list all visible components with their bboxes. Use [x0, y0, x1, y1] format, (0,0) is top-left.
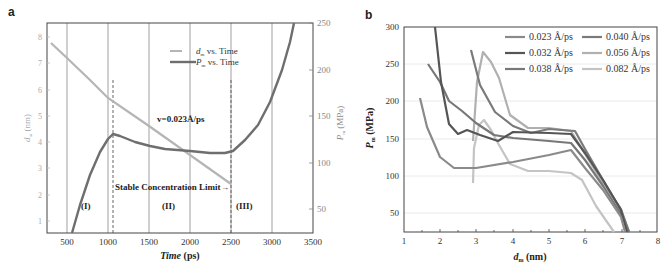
svg-text:2: 2	[38, 191, 42, 200]
svg-text:1000: 1000	[99, 237, 118, 247]
panel-a-label: a	[8, 5, 15, 19]
legend-item-0-023: 0.023 Å/ps	[529, 31, 573, 42]
panel-a-right-axis-label: Pm (MPa)	[335, 106, 346, 142]
panel-b-x-axis-label: dm (nm)	[513, 251, 546, 263]
legend-item-0-056: 0.056 Å/ps	[606, 47, 650, 58]
series-p-m-line	[72, 23, 294, 233]
svg-text:5: 5	[547, 236, 552, 246]
svg-text:200: 200	[317, 65, 331, 75]
legend-d-label: dm vs. Time	[196, 46, 238, 57]
svg-text:3000: 3000	[263, 237, 282, 247]
svg-text:3500: 3500	[304, 237, 323, 247]
region-2-label: (II)	[162, 201, 175, 211]
panel-b-x-tick-labels: 1 2 3 4 5 6 7 8	[402, 236, 661, 246]
svg-text:50: 50	[317, 204, 327, 214]
panel-a-right-tick-labels: 50 100 150 200 250	[317, 18, 331, 214]
svg-text:4: 4	[38, 138, 42, 147]
svg-text:500: 500	[60, 237, 74, 247]
panel-a-left-axis-label: dm (nm)	[22, 114, 33, 142]
panel-b-legend: 0.023 Å/ps 0.032 Å/ps 0.038 Å/ps 0.040 Å…	[505, 31, 650, 74]
svg-text:6: 6	[583, 236, 588, 246]
svg-text:300: 300	[386, 22, 400, 32]
svg-text:2: 2	[438, 236, 443, 246]
svg-text:50: 50	[390, 208, 400, 218]
svg-text:7: 7	[620, 236, 625, 246]
panel-a-legend: dm vs. Time Pm vs. Time	[170, 46, 239, 68]
region-3-label: (III)	[236, 201, 253, 211]
panel-a-x-tick-labels: 500 1000 1500 2000 2500 3000 3500	[60, 237, 322, 247]
panel-b-y-tick-labels: 50 100 150 200 250 300	[386, 22, 400, 218]
svg-text:8: 8	[38, 33, 42, 42]
svg-text:1500: 1500	[140, 237, 159, 247]
svg-text:5: 5	[38, 112, 42, 121]
limit-arrow: →	[221, 183, 229, 192]
legend-item-0-082: 0.082 Å/ps	[606, 63, 650, 74]
svg-text:2000: 2000	[181, 237, 200, 247]
svg-text:7: 7	[38, 59, 42, 68]
panel-b: b 1 2 3 4 5 6 7 8	[364, 8, 661, 263]
legend-item-0-040: 0.040 Å/ps	[606, 31, 650, 42]
svg-text:1: 1	[402, 236, 407, 246]
svg-text:3: 3	[474, 236, 479, 246]
svg-text:6: 6	[38, 86, 42, 95]
region-1-label: (I)	[81, 201, 91, 211]
stable-limit-annotation: Stable Concentration Limit	[115, 182, 221, 192]
velocity-annotation: v=0.023Å/ps	[157, 114, 205, 124]
legend-item-0-032: 0.032 Å/ps	[529, 47, 573, 58]
series-0-038	[428, 64, 629, 232]
panel-a-x-axis-label: Time (ps)	[160, 250, 199, 262]
legend-item-0-038: 0.038 Å/ps	[529, 63, 573, 74]
panel-a: a 1 2 3 4 5 6	[8, 5, 346, 262]
svg-text:2500: 2500	[222, 237, 241, 247]
svg-text:100: 100	[317, 158, 331, 168]
figure: a 1 2 3 4 5 6	[0, 0, 672, 274]
panel-b-y-axis-label: Pm (MPa)	[364, 108, 376, 149]
panel-a-right-ticks	[309, 23, 313, 209]
svg-text:4: 4	[511, 236, 516, 246]
panel-b-series	[420, 27, 629, 232]
svg-text:100: 100	[386, 171, 400, 181]
svg-text:150: 150	[386, 134, 400, 144]
svg-text:8: 8	[656, 236, 661, 246]
svg-text:200: 200	[386, 96, 400, 106]
svg-text:1: 1	[38, 217, 42, 226]
svg-text:250: 250	[386, 59, 400, 69]
svg-text:3: 3	[38, 164, 42, 173]
legend-p-label: Pm vs. Time	[195, 57, 239, 68]
svg-text:150: 150	[317, 111, 331, 121]
panel-a-left-tick-labels: 1 2 3 4 5 6 7 8	[38, 33, 42, 226]
panel-b-label: b	[365, 8, 372, 22]
svg-text:250: 250	[317, 18, 331, 28]
